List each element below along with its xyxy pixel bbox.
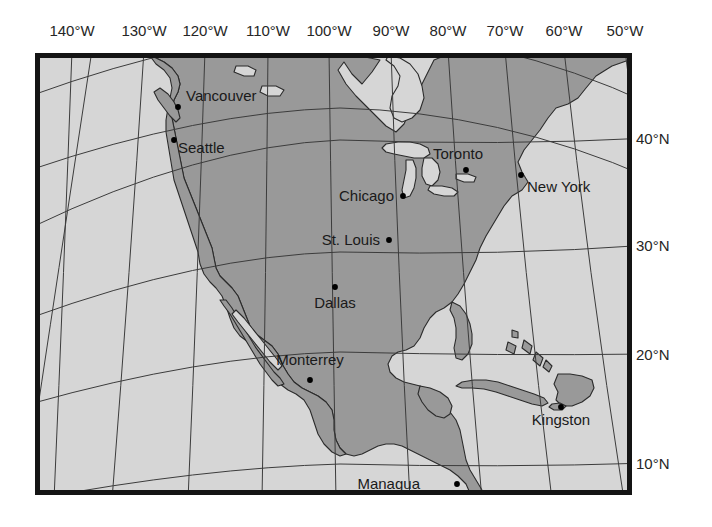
city-dot	[307, 377, 313, 383]
longitude-tick-label: 90°W	[373, 22, 410, 39]
city-label: Chicago	[339, 187, 394, 204]
longitude-tick-label: 50°W	[607, 22, 644, 39]
city-label: St. Louis	[322, 231, 380, 248]
city-label: New York	[527, 178, 591, 195]
city-dot	[558, 404, 564, 410]
city-dot	[454, 481, 460, 487]
city-label: Seattle	[178, 139, 225, 156]
latitude-tick-label: 20°N	[636, 346, 670, 363]
city-label: Vancouver	[186, 87, 257, 104]
meridian-50W	[625, 50, 690, 500]
city-label: Dallas	[314, 294, 356, 311]
map-canvas: VancouverSeattleTorontoNew YorkChicagoSt…	[0, 0, 712, 527]
city-dot	[332, 284, 338, 290]
city-marker: Seattle	[171, 137, 225, 156]
latitude-tick-label: 40°N	[636, 130, 670, 147]
city-dot	[171, 137, 177, 143]
longitude-tick-label: 70°W	[487, 22, 524, 39]
region-bahamas-1	[512, 330, 518, 338]
city-dot	[386, 237, 392, 243]
longitude-tick-label: 80°W	[430, 22, 467, 39]
city-label: Monterrey	[276, 351, 344, 368]
latitude-tick-label: 30°N	[636, 237, 670, 254]
reference-map-figure: VancouverSeattleTorontoNew YorkChicagoSt…	[0, 0, 712, 527]
city-dot	[518, 172, 524, 178]
city-label: Kingston	[532, 411, 590, 428]
longitude-tick-label: 60°W	[546, 22, 583, 39]
city-dot	[175, 104, 181, 110]
city-dot	[463, 167, 469, 173]
longitude-tick-label: 120°W	[182, 22, 227, 39]
longitude-tick-label: 100°W	[306, 22, 351, 39]
longitude-tick-label: 110°W	[246, 22, 290, 39]
city-label: Toronto	[433, 145, 483, 162]
city-label: Managua	[357, 475, 420, 492]
longitude-tick-label: 130°W	[121, 22, 166, 39]
latitude-tick-label: 10°N	[636, 455, 670, 472]
city-dot	[400, 193, 406, 199]
longitude-tick-label: 140°W	[49, 22, 94, 39]
